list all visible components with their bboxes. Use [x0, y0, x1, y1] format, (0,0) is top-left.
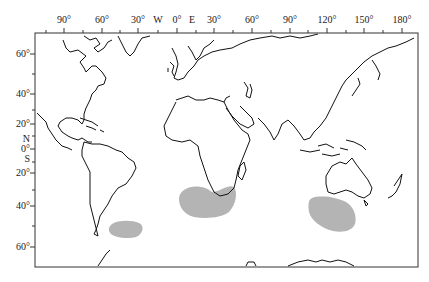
top-ticks: [46, 28, 402, 33]
coast-india: [258, 118, 288, 140]
coast-southeast-asia: [288, 38, 414, 140]
coast-new-guinea: [346, 140, 366, 150]
coast-tasmania: [364, 200, 368, 206]
coast-europe: [172, 48, 230, 102]
coast-madagascar: [238, 162, 246, 180]
region-southeast-atlantic-africa: [179, 186, 236, 218]
map-frame: [35, 33, 418, 267]
coast-indonesia: [300, 144, 348, 156]
coast-kamchatka: [372, 60, 380, 80]
coast-north-america: [58, 40, 106, 142]
coast-australia: [326, 158, 372, 198]
highlighted-regions: [109, 186, 356, 238]
coastlines: [37, 34, 414, 266]
coast-arabia: [226, 106, 254, 128]
coast-antarctica-east: [246, 260, 354, 266]
world-map: [0, 0, 429, 282]
coast-caspian: [244, 82, 252, 98]
left-ticks: [30, 54, 35, 247]
coast-british-isles: [168, 62, 174, 76]
coast-japan: [352, 78, 360, 96]
region-south-atlantic-argentina: [109, 221, 143, 238]
coast-scandinavia: [188, 40, 214, 60]
coast-antarctic-peninsula: [98, 250, 110, 266]
coast-greenland: [118, 36, 150, 56]
coast-asia-north: [220, 34, 318, 50]
coast-arctic-islands: [84, 36, 112, 52]
region-southeast-indian-australia: [308, 197, 355, 232]
coast-africa: [164, 102, 250, 196]
coast-new-zealand: [388, 174, 402, 198]
coast-alaska-pacific: [37, 113, 72, 150]
